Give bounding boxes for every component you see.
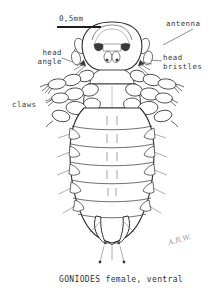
leg1-right-tibia (157, 78, 176, 90)
abdomen (57, 108, 167, 243)
clypeal-band (103, 44, 121, 51)
leg2-left-tibia (51, 92, 69, 103)
leg1-left-tibia (47, 78, 66, 90)
scale-bar-rule (57, 26, 101, 28)
label-claws: claws (12, 100, 37, 109)
terminal-seta-base-left (99, 261, 102, 264)
terminal-seta-base-right (123, 261, 126, 264)
leg3-left-tarsus (46, 121, 53, 127)
leg2-right-tibia (155, 92, 173, 103)
mouth-dot-left (106, 59, 109, 62)
figure-caption: GONIODES female, ventral (59, 275, 183, 284)
prothorax-outline (90, 70, 134, 84)
louse-illustration (0, 0, 224, 299)
label-head-angle: head angle (12, 48, 62, 66)
head (74, 22, 152, 74)
leg3-right-tarsus (171, 121, 178, 127)
mouth-dot-right (116, 59, 119, 62)
label-antenna: antenna (166, 19, 200, 28)
scale-bar-label: 0,5mm (59, 14, 83, 23)
leader-antenna (163, 29, 193, 45)
head-angle-right (138, 60, 144, 66)
label-head-bristles: head bristles (163, 53, 202, 71)
